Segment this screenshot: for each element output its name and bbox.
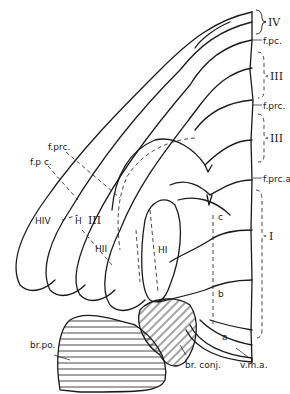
gyrus-3	[170, 180, 252, 195]
gyrus-6	[210, 320, 252, 330]
label-f-pc-top: f.pc.	[263, 36, 282, 46]
label-IV: IV	[268, 16, 281, 29]
label-HIII: III	[88, 214, 101, 227]
midline-border	[250, 12, 253, 362]
label-I: I	[269, 230, 273, 243]
label-HII: HII	[95, 244, 107, 254]
anatomical-diagram: IV f.pc. III f.prc. III f.prc.a c I b a …	[0, 0, 290, 394]
label-f-prc-a: f.prc.a	[263, 174, 290, 184]
label-vma: v.m.a.	[240, 360, 268, 370]
label-c: c	[218, 212, 223, 222]
dashed-curve-upper	[118, 138, 195, 250]
label-br-conj: br. conj.	[185, 360, 221, 370]
label-HIV: HIV	[35, 216, 51, 226]
bracket-IV	[256, 10, 266, 34]
dashed-HI	[150, 210, 158, 292]
label-H: H	[75, 216, 82, 226]
sulcus-v-2	[207, 195, 212, 205]
label-a: a	[222, 332, 228, 342]
leader-f-prc-left	[66, 152, 120, 198]
label-f-prc-left: f.prc.	[48, 142, 70, 152]
label-f-prc-right: f.prc.	[263, 101, 285, 111]
label-III-lower: III	[270, 132, 283, 145]
label-br-po: br.po.	[30, 340, 55, 350]
dashed-HI-left	[136, 230, 140, 282]
sulcus-v-1	[205, 165, 212, 172]
bracket-I	[256, 190, 266, 338]
bracket-III-lower	[258, 114, 268, 162]
label-III-upper: III	[270, 70, 283, 83]
bracket-III-upper	[258, 52, 268, 98]
leader-f-pc-left	[48, 166, 78, 200]
label-HI: HI	[158, 245, 167, 255]
gyrus-1	[195, 100, 252, 130]
label-b: b	[218, 289, 224, 299]
gyrus-4	[170, 230, 252, 262]
label-f-pc-left: f.p c.	[30, 157, 52, 167]
